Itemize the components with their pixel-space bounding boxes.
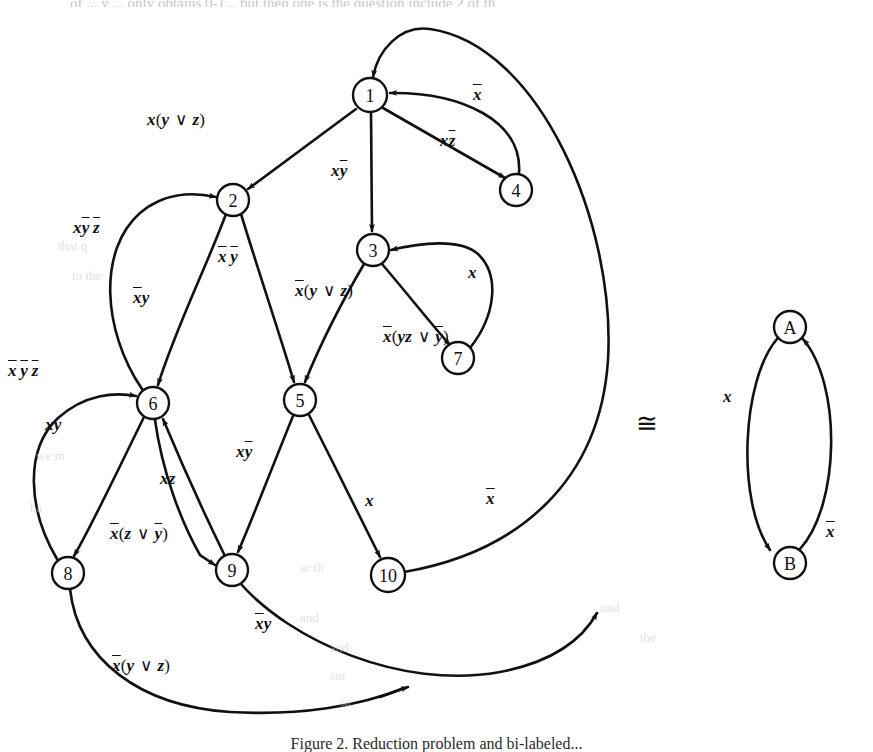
node-A-label: A [784,318,797,338]
node-B-label: B [784,554,796,574]
edge-label-3-7: x(yz ∨ y) [383,328,449,345]
edge-label-6-9: x(z ∨ y) [110,525,168,542]
edge-label-1-3: xy [331,162,347,179]
figure-container: of ... y ... only obtains 0-1... but the… [0,0,873,752]
edge-label-4-1: x [473,86,482,103]
node-4[interactable]: 4 [500,174,532,206]
edge-2-5 [241,214,294,382]
node-10[interactable]: 10 [371,558,405,592]
edge-2-6 [158,214,226,385]
edge-9-1 [240,583,597,676]
edge-label-B-A: x [826,523,835,540]
edge-B-A [800,339,831,549]
edge-label-2-5: x y [218,248,238,265]
edge-label-9-1: xy [255,615,271,632]
edge-label-6-8: xy [45,416,61,433]
edge-label-3-5: x(y ∨ z) [295,282,353,299]
edge-label-A-B: x [723,388,732,405]
edge-label-8-1: x(y ∨ z) [112,657,170,674]
node-5[interactable]: 5 [284,384,316,416]
edge-label-1-2: x(y ∨ z) [147,111,205,128]
node-8-label: 8 [64,564,73,584]
edge-label-10-1: x [486,490,495,507]
node-A[interactable]: A [774,311,806,343]
node-9[interactable]: 9 [216,554,248,586]
node-3[interactable]: 3 [357,234,389,266]
node-8[interactable]: 8 [52,557,84,589]
edge-label-1-4: xz [440,132,456,149]
figure-caption: Figure 2. Reduction problem and bi-label… [0,735,873,752]
node-6[interactable]: 6 [137,387,169,419]
edge-6-2 [110,194,216,389]
node-B[interactable]: B [774,547,806,579]
node-1-label: 1 [366,86,375,106]
edge-label-6-2: xy z [73,219,100,236]
edges-layer [34,29,831,713]
node-1[interactable]: 1 [353,78,387,112]
node-7[interactable]: 7 [442,342,474,374]
node-2-label: 2 [229,191,238,211]
edge-8-1-head [380,687,408,697]
edge-8-1 [70,589,404,713]
edge-label-5-9: xy [236,443,252,460]
node-3-label: 3 [369,241,378,261]
edge-5-10 [309,415,380,557]
edge-label-2-6: xy [133,289,149,306]
node-7-label: 7 [454,349,463,369]
node-5-label: 5 [296,391,305,411]
edge-label-5-10: x [365,492,374,509]
graph-canvas: 1 2 3 4 5 6 7 [0,0,873,752]
edge-1-3 [371,112,372,231]
congruent-symbol: ≅ [636,408,658,439]
node-9-label: 9 [228,561,237,581]
edge-5-9 [238,416,293,552]
edge-label-8-6: x y z [8,362,39,379]
edge-A-B [747,339,777,550]
node-10-label: 10 [379,566,397,586]
edge-label-7-3: x [468,264,477,281]
edge-label-9-6: xz [160,470,176,487]
node-4-label: 4 [512,181,521,201]
edge-6-9 [155,420,215,565]
node-2[interactable]: 2 [217,184,249,216]
node-6-label: 6 [149,394,158,414]
